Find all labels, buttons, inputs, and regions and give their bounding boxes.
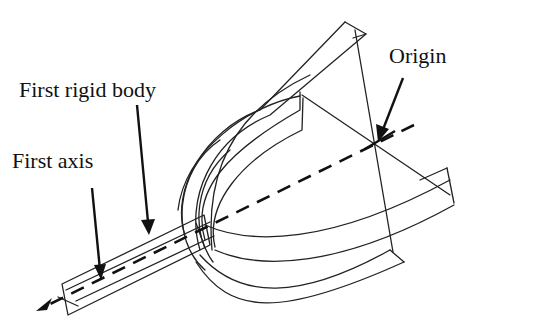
first-rigid-body-label: First rigid body <box>19 79 156 101</box>
pointer-arrows <box>92 78 403 280</box>
first-axis-label: First axis <box>12 150 93 172</box>
first-rigid-body-shape <box>58 215 214 315</box>
origin-label: Origin <box>389 45 446 67</box>
diagram-canvas: First rigid body First axis Origin <box>0 0 534 324</box>
